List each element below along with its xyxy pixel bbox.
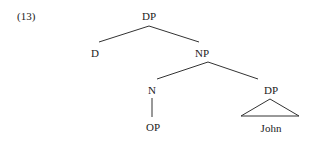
node-dp-object: DP bbox=[264, 84, 278, 96]
branch-np-n bbox=[157, 62, 208, 79]
branch-np-dp bbox=[208, 62, 258, 79]
node-dp-root: DP bbox=[142, 10, 156, 22]
node-n: N bbox=[148, 84, 156, 96]
triangle-dp-john bbox=[241, 99, 299, 116]
node-op: OP bbox=[146, 121, 160, 133]
branch-dp-np bbox=[149, 26, 199, 42]
node-john: John bbox=[261, 122, 282, 134]
node-np: NP bbox=[195, 47, 209, 59]
node-d: D bbox=[91, 47, 99, 59]
branch-dp-d bbox=[99, 26, 149, 42]
